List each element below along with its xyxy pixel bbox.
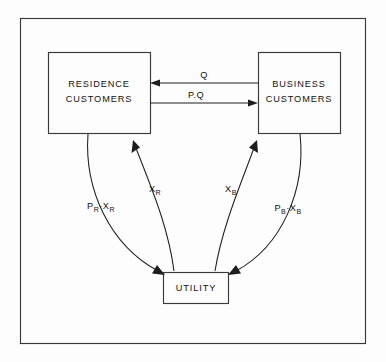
node-business-customers: BUSINESS CUSTOMERS [259, 53, 341, 134]
pq-arrow-head [248, 99, 258, 106]
diagram-svg: RESIDENCE CUSTOMERS BUSINESS CUSTOMERS U… [0, 0, 386, 362]
pr-xr-label-x-sub: R [109, 206, 115, 213]
pr-xr-label-p: P [87, 201, 94, 211]
xr-label: XR [149, 184, 161, 196]
node-residence-customers: RESIDENCE CUSTOMERS [49, 53, 151, 134]
utility-label: UTILITY [176, 283, 217, 293]
edge-pq-residence-to-business: P.Q [150, 90, 258, 107]
diagram-frame [21, 19, 366, 344]
xb-label-x: X [225, 184, 232, 194]
residence-label-line1: RESIDENCE [68, 79, 130, 89]
q-label: Q [200, 70, 208, 80]
edge-pr-xr-residence-to-utility: PR·XR [87, 134, 165, 275]
xr-label-x: X [149, 184, 156, 194]
edge-xr-utility-to-residence: XR [132, 140, 175, 271]
pb-xb-label-x-sub: B [296, 208, 301, 215]
pq-label: P.Q [188, 90, 204, 100]
pb-xb-arrow-head [228, 265, 241, 275]
business-box [259, 53, 341, 134]
pb-xb-label-p: P [274, 203, 281, 213]
xb-curve [215, 148, 254, 271]
edge-q-business-to-residence: Q [150, 70, 258, 87]
q-arrow-head [150, 79, 160, 86]
pr-xr-label: PR·XR [87, 201, 115, 213]
xb-arrow-head [249, 140, 258, 153]
xr-label-x-sub: R [156, 189, 162, 196]
residence-label-line2: CUSTOMERS [66, 94, 133, 104]
xr-curve [136, 148, 174, 271]
xb-label: XB [225, 184, 237, 196]
business-label-line1: BUSINESS [272, 79, 326, 89]
pr-xr-arrow-head [152, 265, 165, 275]
edge-xb-utility-to-business: XB [215, 140, 258, 271]
residence-box [49, 53, 151, 134]
pr-xr-curve [88, 134, 158, 271]
xb-label-x-sub: B [232, 189, 237, 196]
pb-xb-label-x: X [290, 203, 297, 213]
xr-arrow-head [132, 140, 141, 153]
edge-pb-xb-business-to-utility: PB·XB [228, 134, 302, 275]
business-label-line2: CUSTOMERS [266, 94, 333, 104]
diagram-canvas: RESIDENCE CUSTOMERS BUSINESS CUSTOMERS U… [0, 0, 386, 362]
pr-xr-label-x: X [103, 201, 110, 211]
node-utility: UTILITY [164, 273, 229, 304]
